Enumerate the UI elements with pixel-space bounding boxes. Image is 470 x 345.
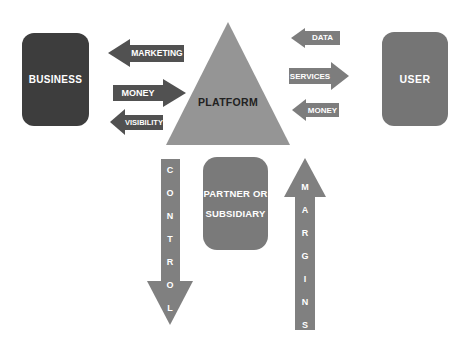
- user-label: USER: [400, 73, 431, 85]
- visibility-arrow-label: VISIBILITY: [125, 115, 163, 130]
- business-box: BUSINESS: [22, 33, 89, 126]
- marketing-arrow: MARKETING: [108, 39, 184, 67]
- partner-subsidiary-box: PARTNER OR SUBSIDIARY: [203, 157, 268, 250]
- partner-box-line2: SUBSIDIARY: [205, 204, 265, 224]
- data-arrow-label: DATA: [305, 31, 340, 45]
- money-from-user-arrow-label: MONEY: [306, 103, 339, 117]
- data-arrow: DATA: [291, 27, 340, 48]
- user-box: USER: [382, 32, 448, 126]
- services-arrow: SERVICES: [289, 62, 349, 90]
- arrow-left-head-icon: [108, 39, 130, 67]
- services-arrow-label: SERVICES: [289, 68, 331, 84]
- control-arrow: CONTROL: [147, 159, 193, 325]
- money-to-platform-arrow-label: MONEY: [113, 85, 163, 101]
- arrow-left-head-icon: [291, 28, 305, 48]
- business-label: BUSINESS: [29, 74, 83, 85]
- marketing-arrow-label: MARKETING: [130, 45, 184, 62]
- arrow-right-head-icon: [331, 62, 349, 90]
- money-to-platform-arrow: MONEY: [113, 78, 186, 107]
- arrow-left-head-icon: [110, 109, 125, 135]
- platform-business-model-diagram: BUSINESS USER PLATFORM MARKETING MONEY V…: [0, 0, 470, 345]
- money-from-user-arrow: MONEY: [292, 99, 339, 121]
- margins-arrow: MARGINS: [284, 158, 326, 330]
- control-arrow-label: CONTROL: [147, 165, 193, 313]
- arrow-left-head-icon: [292, 99, 306, 121]
- visibility-arrow: VISIBILITY: [110, 109, 163, 135]
- arrow-right-head-icon: [163, 79, 186, 107]
- partner-box-line1: PARTNER OR: [203, 184, 267, 204]
- margins-arrow-label: MARGINS: [284, 182, 326, 330]
